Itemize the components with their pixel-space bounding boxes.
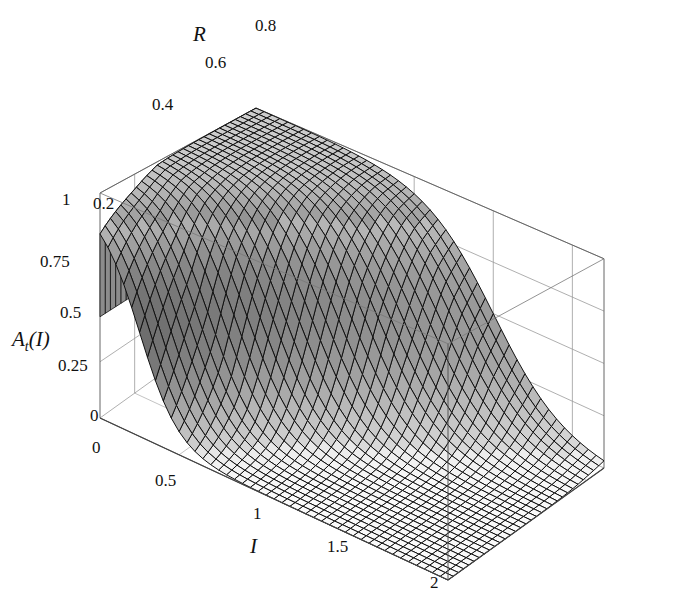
x-tick-1.5: 1.5 xyxy=(327,537,348,556)
x-tick-1: 1 xyxy=(253,504,262,523)
y-tick-0.8: 0.8 xyxy=(255,16,276,35)
x-tick-2: 2 xyxy=(430,573,439,592)
z-axis-label: At(I) xyxy=(10,327,50,354)
x-tick-0.5: 0.5 xyxy=(155,471,176,490)
surface-plot: 1 0.75 0.5 0.25 0 At(I) 0 0.5 1 1.5 2 I … xyxy=(0,0,675,595)
y-tick-0.2: 0.2 xyxy=(93,194,114,213)
z-tick-1: 1 xyxy=(62,190,71,209)
x-axis-label: I xyxy=(249,534,258,558)
x-tick-0: 0 xyxy=(92,438,101,457)
y-axis-label: R xyxy=(192,22,206,46)
z-tick-0.75: 0.75 xyxy=(40,252,70,271)
z-tick-0: 0 xyxy=(90,406,99,425)
surface-mesh xyxy=(100,108,604,580)
y-tick-0.6: 0.6 xyxy=(205,53,226,72)
plot-canvas: 1 0.75 0.5 0.25 0 At(I) 0 0.5 1 1.5 2 I … xyxy=(0,0,675,595)
z-tick-0.5: 0.5 xyxy=(60,303,81,322)
y-tick-0.4: 0.4 xyxy=(152,95,174,114)
z-tick-0.25: 0.25 xyxy=(58,356,88,375)
